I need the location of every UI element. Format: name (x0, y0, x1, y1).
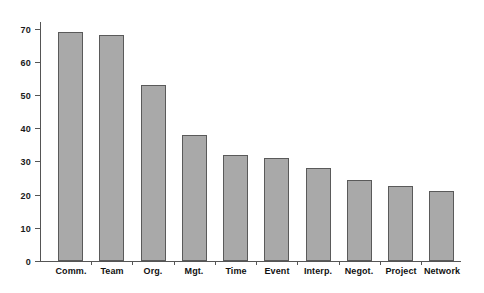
bar (141, 85, 166, 261)
bar (429, 191, 454, 261)
bar (58, 32, 83, 261)
x-axis-tick (174, 261, 175, 265)
bar-chart: 010203040506070 Comm.TeamOrg.Mgt.TimeEve… (0, 0, 484, 293)
bar (182, 135, 207, 261)
x-axis-tick (256, 261, 257, 265)
x-axis-tick (380, 261, 381, 265)
plot-area (40, 22, 460, 261)
y-axis-tick-label: 40 (21, 124, 31, 134)
bar (99, 35, 124, 261)
x-axis-tick-label: Network (402, 266, 482, 276)
x-axis-tick (132, 261, 133, 265)
x-axis-line (40, 261, 461, 262)
y-axis-tick-label: 30 (21, 157, 31, 167)
y-axis-tick-label: 20 (21, 191, 31, 201)
x-axis-tick (339, 261, 340, 265)
y-axis-tick-label: 0 (26, 257, 31, 267)
bar (223, 155, 248, 261)
x-axis-tick (91, 261, 92, 265)
y-axis-tick-label: 10 (21, 224, 31, 234)
bar (388, 186, 413, 261)
x-axis-tick (215, 261, 216, 265)
bar (306, 168, 331, 261)
y-axis-tick-label: 70 (21, 25, 31, 35)
x-axis-tick (297, 261, 298, 265)
y-axis-tick-label: 50 (21, 91, 31, 101)
x-axis-tick (421, 261, 422, 265)
bar (347, 180, 372, 261)
y-axis-tick-label: 60 (21, 58, 31, 68)
y-axis-tick: 0 (35, 261, 40, 262)
bar (264, 158, 289, 261)
